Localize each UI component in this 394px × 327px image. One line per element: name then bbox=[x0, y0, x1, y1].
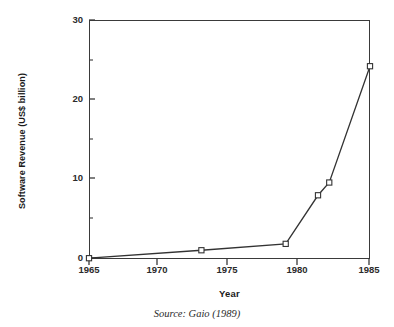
x-tick-label-1970: 1970 bbox=[135, 264, 179, 275]
x-tick-label-1980: 1980 bbox=[275, 264, 319, 275]
chart-figure: Software Revenue (US$ billion) 30 20 10 … bbox=[0, 0, 394, 327]
y-axis-minor-ticks bbox=[89, 60, 93, 218]
data-point-marker bbox=[199, 248, 204, 253]
data-point-marker bbox=[315, 193, 320, 198]
x-axis-tick-labels: 1965 1970 1975 1980 1985 bbox=[0, 264, 394, 278]
y-axis-title: Software Revenue (US$ billion) bbox=[14, 10, 30, 272]
data-point-marker bbox=[327, 180, 332, 185]
x-tick-label-1965: 1965 bbox=[67, 264, 111, 275]
x-tick-label-1985: 1985 bbox=[347, 264, 391, 275]
y-tick-label-30: 30 bbox=[57, 15, 83, 25]
y-tick-label-0: 0 bbox=[57, 253, 83, 263]
plot-area bbox=[89, 20, 370, 259]
x-axis-title: Year bbox=[89, 288, 370, 299]
y-tick-label-20: 20 bbox=[57, 94, 83, 104]
x-tick-label-1975: 1975 bbox=[205, 264, 249, 275]
y-tick-label-10: 10 bbox=[57, 173, 83, 183]
data-point-marker bbox=[367, 64, 372, 69]
data-point-markers bbox=[86, 64, 372, 261]
data-line-software-revenue bbox=[89, 66, 370, 258]
source-caption: Source: Gaio (1989) bbox=[0, 308, 394, 319]
data-point-marker bbox=[86, 256, 91, 261]
data-point-marker bbox=[283, 241, 288, 246]
